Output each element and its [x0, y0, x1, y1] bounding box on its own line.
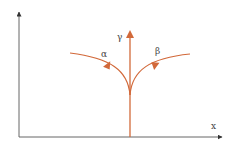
gamma-branch: γ: [117, 30, 134, 137]
beta-arrow-icon: [150, 61, 159, 70]
branching-diagram: x γ α β: [0, 0, 230, 141]
beta-branch: β: [130, 46, 190, 95]
beta-label: β: [155, 46, 160, 56]
alpha-branch: α: [70, 49, 130, 95]
alpha-label: α: [101, 49, 107, 59]
gamma-arrow-icon: [126, 30, 134, 38]
x-axis-label: x: [211, 121, 216, 131]
gamma-label: γ: [117, 32, 122, 42]
x-axis: x: [19, 121, 222, 137]
